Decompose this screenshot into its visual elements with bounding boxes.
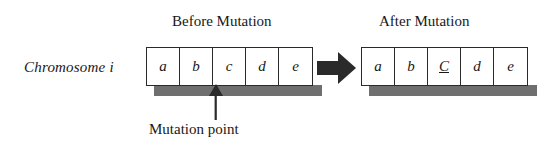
mutation-point-arrow-icon xyxy=(206,84,226,120)
gene-strip-before: a b c d e xyxy=(146,47,313,86)
chromosome-after-mutation: a b C d e xyxy=(361,47,528,87)
gene-cell: d xyxy=(246,48,279,85)
mutation-diagram: Before Mutation After Mutation Chromosom… xyxy=(0,0,552,152)
chromosome-before-mutation: a b c d e xyxy=(146,47,313,87)
gene-cell: b xyxy=(180,48,213,85)
chromosome-shadow-after xyxy=(369,85,537,96)
panel-title-before-mutation: Before Mutation xyxy=(172,12,272,30)
gene-cell: b xyxy=(395,48,428,85)
gene-cell-mutated: C xyxy=(428,48,461,85)
gene-strip-after: a b C d e xyxy=(361,47,528,86)
gene-cell: e xyxy=(279,48,312,85)
chromosome-shadow-before xyxy=(154,85,322,96)
gene-cell: c xyxy=(213,48,246,85)
gene-cell: e xyxy=(494,48,527,85)
gene-cell: d xyxy=(461,48,494,85)
panel-title-after-mutation: After Mutation xyxy=(379,12,469,30)
gene-cell: a xyxy=(362,48,395,85)
chromosome-row-label: Chromosome i xyxy=(24,57,114,77)
mutation-point-label: Mutation point xyxy=(149,120,239,138)
gene-cell: a xyxy=(147,48,180,85)
block-right-arrow-icon xyxy=(317,52,357,84)
